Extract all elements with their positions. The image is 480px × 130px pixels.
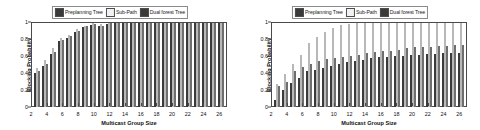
bar-group bbox=[81, 22, 89, 107]
bar-groups-left bbox=[31, 22, 227, 107]
plot-area-right bbox=[271, 22, 467, 107]
bar-group bbox=[329, 22, 337, 107]
bar-group bbox=[377, 22, 385, 107]
bar bbox=[422, 47, 424, 107]
bar-group bbox=[433, 22, 441, 107]
bar bbox=[62, 40, 64, 107]
bar bbox=[342, 57, 344, 107]
bar-group bbox=[449, 22, 457, 107]
bar-group bbox=[217, 22, 225, 107]
x-tick-mark bbox=[47, 103, 48, 106]
bar bbox=[214, 23, 216, 107]
bar bbox=[206, 23, 208, 107]
bar-group bbox=[201, 22, 209, 107]
x-tick-mark bbox=[156, 103, 157, 106]
x-tick-label: 22 bbox=[425, 111, 431, 117]
bar-group bbox=[441, 22, 449, 107]
bar-group bbox=[273, 22, 281, 107]
x-tick-label: 18 bbox=[393, 111, 399, 117]
bar-group bbox=[369, 22, 377, 107]
bar bbox=[438, 46, 440, 107]
bar bbox=[334, 58, 336, 107]
legend-label-subpath: Sub-Path bbox=[356, 10, 377, 15]
bar-group bbox=[289, 22, 297, 107]
left-chart-panel: Preplanning Tree Sub-Path Dual forest Tr… bbox=[0, 0, 240, 130]
x-tick-mark bbox=[412, 103, 413, 106]
x-tick-mark bbox=[109, 103, 110, 106]
legend-item-subpath-right: Sub-Path bbox=[346, 8, 377, 17]
bar-group bbox=[49, 22, 57, 107]
x-tick-mark bbox=[141, 103, 142, 106]
y-tick-label: 0.2 bbox=[261, 87, 269, 93]
x-tick-label: 24 bbox=[200, 111, 206, 117]
x-tick-mark bbox=[125, 103, 126, 106]
bar bbox=[310, 64, 312, 107]
bar-group bbox=[113, 22, 121, 107]
legend-label-dualforest: Dual forest Tree bbox=[390, 10, 425, 15]
bar-group bbox=[297, 22, 305, 107]
x-tick-mark bbox=[62, 103, 63, 106]
bar bbox=[430, 47, 432, 107]
bar-group bbox=[345, 22, 353, 107]
bar-group bbox=[129, 22, 137, 107]
bar-group bbox=[161, 22, 169, 107]
bar bbox=[350, 56, 352, 107]
x-tick-label: 4 bbox=[45, 111, 48, 117]
bar bbox=[198, 23, 200, 107]
bar bbox=[302, 67, 304, 107]
legend-label-subpath: Sub-Path bbox=[116, 10, 137, 15]
bar bbox=[406, 48, 408, 107]
bar bbox=[398, 50, 400, 107]
x-tick-mark bbox=[172, 103, 173, 106]
bar bbox=[382, 51, 384, 107]
legend-swatch-subpath-icon bbox=[346, 8, 355, 17]
bar bbox=[118, 23, 120, 107]
bar-group bbox=[169, 22, 177, 107]
bar-group bbox=[305, 22, 313, 107]
bar bbox=[86, 26, 88, 107]
x-tick-label: 10 bbox=[331, 111, 337, 117]
legend-item-dualforest-right: Dual forest Tree bbox=[380, 8, 425, 17]
bar bbox=[182, 23, 184, 107]
bar-group bbox=[177, 22, 185, 107]
bar bbox=[414, 47, 416, 107]
bar-group bbox=[361, 22, 369, 107]
x-tick-label: 26 bbox=[456, 111, 462, 117]
bar bbox=[358, 55, 360, 107]
two-panel-bar-chart-figure: Preplanning Tree Sub-Path Dual forest Tr… bbox=[0, 0, 480, 130]
bar-group bbox=[97, 22, 105, 107]
legend-label-dualforest: Dual forest Tree bbox=[150, 10, 185, 15]
x-tick-label: 18 bbox=[153, 111, 159, 117]
bar-group bbox=[321, 22, 329, 107]
x-tick-mark bbox=[188, 103, 189, 106]
bar bbox=[126, 23, 128, 107]
bar-group bbox=[185, 22, 193, 107]
bar-group bbox=[457, 22, 465, 107]
x-tick-label: 10 bbox=[91, 111, 97, 117]
bar-group bbox=[385, 22, 393, 107]
legend-item-subpath-left: Sub-Path bbox=[106, 8, 137, 17]
bar-group bbox=[65, 22, 73, 107]
x-axis-label-left: Multicast Group Size bbox=[31, 120, 227, 126]
bar-group bbox=[121, 22, 129, 107]
x-tick-label: 16 bbox=[378, 111, 384, 117]
x-tick-label: 16 bbox=[138, 111, 144, 117]
bar bbox=[110, 23, 112, 107]
x-tick-mark bbox=[94, 103, 95, 106]
bar-groups-right bbox=[271, 22, 467, 107]
y-tick-label: 0.4 bbox=[261, 70, 269, 76]
x-tick-mark bbox=[365, 103, 366, 106]
bar bbox=[174, 23, 176, 107]
plot-area-left bbox=[31, 22, 227, 107]
x-tick-mark bbox=[31, 103, 32, 106]
y-tick-label: 0.8 bbox=[261, 36, 269, 42]
x-tick-label: 2 bbox=[30, 111, 33, 117]
bar bbox=[166, 23, 168, 107]
y-axis-ticks-left: 00.20.40.60.81 bbox=[14, 22, 30, 107]
bar-group bbox=[89, 22, 97, 107]
bar-group bbox=[137, 22, 145, 107]
x-tick-label: 20 bbox=[169, 111, 175, 117]
bar bbox=[102, 26, 104, 107]
x-tick-mark bbox=[287, 103, 288, 106]
x-tick-mark bbox=[396, 103, 397, 106]
